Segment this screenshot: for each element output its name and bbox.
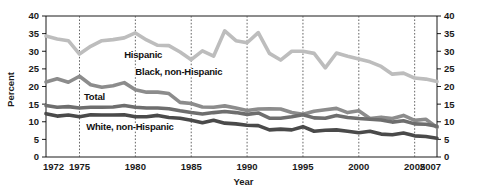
svg-text:1995: 1995 bbox=[292, 161, 314, 172]
svg-text:0: 0 bbox=[34, 151, 39, 162]
svg-text:1985: 1985 bbox=[181, 161, 203, 172]
series-label-white-non-hispanic: White, non-Hispanic bbox=[86, 121, 174, 132]
series-label-black-non-hispanic: Black, non-Hispanic bbox=[135, 66, 222, 77]
svg-text:10: 10 bbox=[444, 116, 455, 127]
svg-text:1990: 1990 bbox=[237, 161, 258, 172]
svg-text:5: 5 bbox=[34, 134, 40, 145]
svg-text:1975: 1975 bbox=[69, 161, 91, 172]
svg-text:0: 0 bbox=[444, 151, 449, 162]
series-label-hispanic: Hispanic bbox=[124, 49, 162, 60]
svg-text:25: 25 bbox=[28, 63, 39, 74]
svg-text:1980: 1980 bbox=[125, 161, 146, 172]
y-axis-title: Percent bbox=[5, 62, 16, 118]
svg-text:15: 15 bbox=[28, 99, 39, 110]
x-axis-title: Year bbox=[0, 176, 487, 187]
svg-text:30: 30 bbox=[28, 46, 39, 57]
svg-text:25: 25 bbox=[444, 63, 455, 74]
svg-text:2000: 2000 bbox=[348, 161, 369, 172]
svg-text:20: 20 bbox=[28, 81, 39, 92]
svg-text:35: 35 bbox=[28, 28, 39, 39]
svg-text:2007: 2007 bbox=[420, 161, 441, 172]
chart-plot-area: 0510152025303540051015202530354019721975… bbox=[0, 0, 487, 196]
dropout-rate-line-chart: 0510152025303540051015202530354019721975… bbox=[0, 0, 487, 196]
svg-text:20: 20 bbox=[444, 81, 455, 92]
svg-text:5: 5 bbox=[444, 134, 450, 145]
svg-text:40: 40 bbox=[444, 10, 455, 21]
svg-text:1972: 1972 bbox=[43, 161, 64, 172]
svg-text:15: 15 bbox=[444, 99, 455, 110]
svg-text:30: 30 bbox=[444, 46, 455, 57]
svg-text:40: 40 bbox=[28, 10, 39, 21]
svg-text:10: 10 bbox=[28, 116, 39, 127]
series-label-total: Total bbox=[84, 91, 105, 102]
svg-text:35: 35 bbox=[444, 28, 455, 39]
